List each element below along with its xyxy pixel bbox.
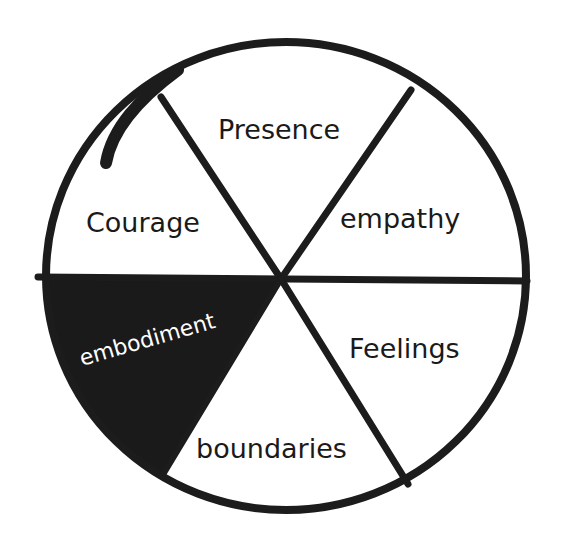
segment-label-empathy: empathy [340,203,460,234]
segment-label-presence: Presence [218,114,340,145]
segment-label-boundaries: boundaries [196,433,347,464]
wheel-diagram: Presence empathy Feelings boundaries emb… [0,0,562,548]
segment-label-feelings: Feelings [349,333,460,364]
segment-label-courage: Courage [86,207,200,238]
